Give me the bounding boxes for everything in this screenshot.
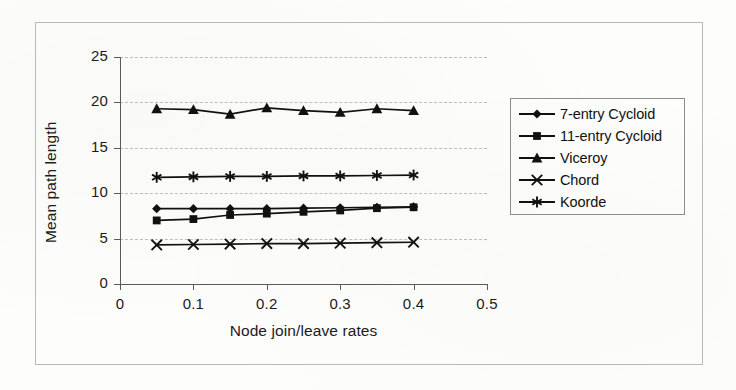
plot-area bbox=[120, 57, 487, 284]
y-axis-line bbox=[120, 57, 121, 284]
legend-label: 11-entry Cycloid bbox=[560, 128, 662, 144]
legend-marker-cross bbox=[517, 170, 557, 190]
marker-square bbox=[153, 217, 161, 225]
marker-diamond bbox=[189, 204, 198, 213]
legend-marker-triangle bbox=[517, 148, 557, 168]
legend-label: Viceroy bbox=[560, 150, 607, 166]
marker-square bbox=[410, 203, 418, 211]
legend-entry: Viceroy bbox=[517, 147, 684, 169]
y-axis-title: Mean path length bbox=[42, 121, 60, 242]
chart-screenshot: Mean path length 0510152025 00.10.20.30.… bbox=[0, 0, 736, 390]
x-tick-mark bbox=[414, 284, 415, 290]
marker-square bbox=[533, 132, 541, 140]
x-tick-label: 0.1 bbox=[168, 295, 218, 312]
x-axis-line bbox=[120, 284, 487, 285]
legend-label: Koorde bbox=[560, 194, 606, 210]
legend-label: Chord bbox=[560, 172, 599, 188]
x-tick-label: 0.4 bbox=[389, 295, 439, 312]
legend-entry: 7-entry Cycloid bbox=[517, 103, 684, 125]
marker-square bbox=[300, 208, 308, 216]
x-tick-label: 0 bbox=[95, 295, 145, 312]
x-axis-title: Node join/leave rates bbox=[120, 322, 487, 340]
series-viceroy bbox=[151, 102, 419, 118]
x-tick-mark bbox=[267, 284, 268, 290]
y-tick-label: 0 bbox=[64, 274, 108, 291]
marker-square bbox=[226, 211, 234, 219]
y-tick-label: 25 bbox=[64, 47, 108, 64]
legend-marker-asterisk bbox=[517, 192, 557, 212]
chart-legend: 7-entry Cycloid11-entry CycloidViceroyCh… bbox=[510, 98, 685, 215]
x-tick-mark bbox=[487, 284, 488, 290]
marker-diamond bbox=[152, 204, 161, 213]
series-chord bbox=[152, 237, 419, 250]
marker-square bbox=[263, 210, 271, 218]
marker-square bbox=[336, 207, 344, 215]
x-tick-mark bbox=[340, 284, 341, 290]
series-layer bbox=[120, 57, 487, 284]
legend-entry: Chord bbox=[517, 169, 684, 191]
y-tick-label: 20 bbox=[64, 92, 108, 109]
series-koorde bbox=[152, 170, 418, 183]
y-tick-label: 15 bbox=[64, 138, 108, 155]
x-tick-label: 0.2 bbox=[242, 295, 292, 312]
y-tick-mark bbox=[114, 148, 120, 149]
marker-diamond bbox=[532, 109, 541, 118]
x-tick-label: 0.3 bbox=[315, 295, 365, 312]
legend-entry: Koorde bbox=[517, 191, 684, 213]
y-tick-mark bbox=[114, 193, 120, 194]
y-tick-mark bbox=[114, 57, 120, 58]
legend-label: 7-entry Cycloid bbox=[560, 106, 655, 122]
marker-square bbox=[373, 204, 381, 212]
y-tick-mark bbox=[114, 239, 120, 240]
y-tick-label: 10 bbox=[64, 183, 108, 200]
x-tick-mark bbox=[120, 284, 121, 290]
marker-square bbox=[190, 215, 198, 223]
x-tick-mark bbox=[193, 284, 194, 290]
x-tick-label: 0.5 bbox=[462, 295, 512, 312]
y-tick-label: 5 bbox=[64, 229, 108, 246]
legend-marker-square bbox=[517, 126, 557, 146]
legend-entry: 11-entry Cycloid bbox=[517, 125, 684, 147]
legend-marker-diamond bbox=[517, 104, 557, 124]
y-tick-mark bbox=[114, 102, 120, 103]
